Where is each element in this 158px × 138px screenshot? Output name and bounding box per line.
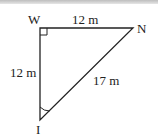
angle-arc-marker	[40, 107, 50, 111]
vertex-label-n: N	[137, 22, 146, 35]
side-label-wi: 12 m	[10, 66, 36, 79]
vertex-label-i: I	[36, 123, 40, 136]
right-angle-marker	[40, 28, 47, 35]
vertex-label-w: W	[28, 13, 40, 26]
side-label-wn: 12 m	[72, 13, 98, 26]
side-label-ni: 17 m	[93, 74, 119, 87]
